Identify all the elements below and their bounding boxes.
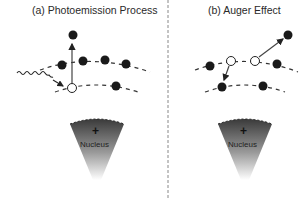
panel-b-nucleus-charge: + <box>240 125 247 137</box>
panel-a-electrons <box>58 31 131 93</box>
photon-wave <box>17 72 53 78</box>
vacancy <box>68 84 77 93</box>
panel-b-inner-shell <box>205 85 285 92</box>
panel-a-nucleus-label: Nucleus <box>80 140 109 149</box>
panel-a-nucleus-charge: + <box>92 125 99 137</box>
ejected-electron <box>69 31 78 40</box>
panel-b-nucleus-label: Nucleus <box>228 140 257 149</box>
diagram-canvas <box>0 0 308 200</box>
vacancy <box>251 57 260 66</box>
auger-ejection-arrow <box>259 39 283 57</box>
relaxation-arrow <box>224 66 229 80</box>
auger-electron <box>284 31 293 40</box>
vacancy <box>227 57 236 66</box>
panel-b-electrons <box>206 31 293 92</box>
panel-a-outer-shell <box>40 61 150 72</box>
